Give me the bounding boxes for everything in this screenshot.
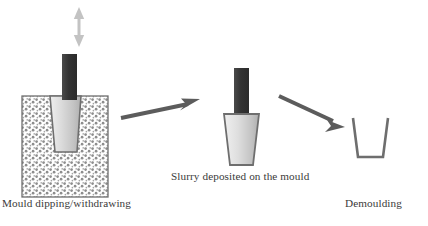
holder-rod xyxy=(62,54,77,100)
process-arrow-1-icon xyxy=(121,99,200,119)
stage-1-caption: Mould dipping/withdrawing xyxy=(2,197,131,209)
stage-3-group xyxy=(353,118,388,157)
stage-2-group xyxy=(224,68,259,165)
stage-2-caption: Slurry deposited on the mould xyxy=(171,170,309,182)
hollow-cup-outline xyxy=(353,118,388,157)
mould-trapezoid xyxy=(50,96,81,152)
stage-1-group xyxy=(22,7,108,197)
coated-mould-trapezoid xyxy=(224,114,259,165)
vertical-motion-arrow-icon xyxy=(74,7,84,47)
holder-rod-2 xyxy=(234,68,249,116)
process-diagram: Mould dipping/withdrawing Slurry deposit… xyxy=(0,0,428,226)
stage-3-caption: Demoulding xyxy=(345,197,402,209)
process-arrow-2-icon xyxy=(279,96,345,132)
diagram-canvas xyxy=(0,0,428,226)
